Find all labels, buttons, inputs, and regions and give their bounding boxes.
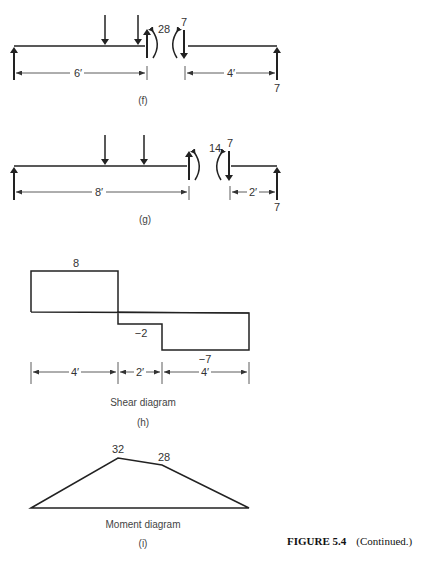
shear-value-label: −7 bbox=[199, 353, 212, 365]
moment-value-label: 14 bbox=[209, 142, 221, 154]
panel-label: (f) bbox=[138, 95, 147, 106]
figure-canvas: 28 7 7 6′ 4′ (f) 14 7 7 bbox=[0, 0, 421, 566]
figure-note: (Continued.) bbox=[356, 535, 412, 547]
shear-value-label: 7 bbox=[227, 137, 233, 149]
reaction-value-label: 7 bbox=[274, 201, 280, 213]
panel-i-moment-diagram: 32 28 Moment diagram (i) bbox=[31, 443, 249, 549]
panel-g: 14 7 7 8′ 2′ (g) bbox=[14, 135, 280, 225]
panel-h-shear-diagram: 8 −2 −7 4′ 2′ 4′ Shear diagram (h) bbox=[31, 257, 249, 428]
shear-value-label: 7 bbox=[181, 16, 187, 28]
span-dimension-label: 4′ bbox=[227, 67, 235, 79]
span-dimension-label: 2′ bbox=[249, 186, 257, 198]
internal-moment-arc-icon bbox=[152, 30, 157, 58]
shear-value-label: −2 bbox=[135, 327, 148, 339]
panel-label: (g) bbox=[139, 214, 151, 225]
span-dimension-label: 4′ bbox=[71, 366, 79, 378]
moment-value-label: 32 bbox=[112, 443, 124, 455]
panel-label: (i) bbox=[139, 538, 148, 549]
panel-f: 28 7 7 6′ 4′ (f) bbox=[14, 15, 280, 106]
span-dimension-label: 4′ bbox=[201, 366, 209, 378]
moment-value-label: 28 bbox=[158, 451, 170, 463]
shear-value-label: 8 bbox=[73, 257, 79, 269]
span-dimension-label: 8′ bbox=[95, 186, 103, 198]
internal-moment-arc-icon bbox=[173, 30, 178, 58]
diagram-title: Shear diagram bbox=[110, 397, 176, 408]
figure-caption: FIGURE 5.4(Continued.) bbox=[287, 535, 412, 547]
diagram-title: Moment diagram bbox=[105, 519, 180, 530]
span-dimension-label: 2′ bbox=[136, 366, 144, 378]
panel-label: (h) bbox=[137, 417, 149, 428]
internal-moment-arc-icon bbox=[217, 152, 222, 180]
internal-moment-arc-icon bbox=[194, 152, 199, 180]
figure-number: FIGURE 5.4 bbox=[287, 535, 346, 547]
moment-value-label: 28 bbox=[158, 23, 170, 35]
span-dimension-label: 6′ bbox=[74, 67, 82, 79]
reaction-value-label: 7 bbox=[274, 82, 280, 94]
moment-curve bbox=[31, 458, 249, 508]
